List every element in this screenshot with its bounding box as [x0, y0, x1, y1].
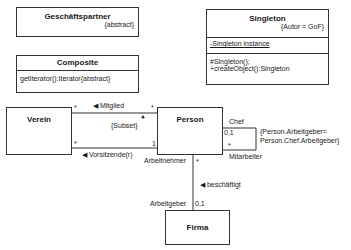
- multiplicity: 0,1: [195, 200, 205, 207]
- multiplicity: 1: [152, 140, 156, 147]
- class-name: Singleton: [207, 10, 328, 23]
- class-name: Verein: [7, 115, 71, 124]
- class-name: Composite: [17, 56, 138, 70]
- association-label-mitglied: ◀ Mitglied: [93, 102, 124, 110]
- class-name: Person: [158, 115, 222, 124]
- multiplicity: 0,1: [224, 129, 234, 136]
- class-operation: getIterator():Iterator{abstract}: [17, 70, 138, 92]
- class-operation: +createObject():Singleton: [210, 65, 325, 72]
- subset-constraint: {Subset}: [111, 122, 137, 129]
- class-tag: {Autor = GoF}: [207, 23, 328, 30]
- ocl-constraint: Person.Chef.Arbeitgeber}: [260, 137, 339, 144]
- multiplicity: *: [74, 104, 77, 111]
- class-attribute: -Singleton instance: [210, 40, 270, 47]
- role-chef: Chef: [229, 118, 244, 125]
- class-firma[interactable]: Firma: [165, 210, 230, 245]
- class-geschaeftspartner[interactable]: Geschäftspartner {abstract}: [16, 7, 139, 37]
- role-arbeitnehmer: Arbeitnehmer: [144, 157, 186, 164]
- class-operation: #Singleton();: [210, 58, 325, 65]
- multiplicity: *: [74, 140, 77, 147]
- multiplicity: *: [196, 158, 199, 165]
- association-label-vorsitzende: ◀ Vorsitzende(r): [82, 151, 133, 159]
- class-composite[interactable]: Composite getIterator():Iterator{abstrac…: [16, 55, 139, 93]
- class-singleton[interactable]: Singleton {Autor = GoF} -Singleton insta…: [206, 9, 329, 85]
- class-name: Firma: [166, 223, 229, 232]
- class-verein[interactable]: Verein: [6, 107, 72, 155]
- ocl-constraint: {Person.Arbeitgeber=: [260, 128, 327, 135]
- association-label-beschaeftigt: ◀ beschäftigt: [200, 181, 241, 189]
- multiplicity: *: [228, 142, 231, 149]
- class-person[interactable]: Person: [157, 107, 223, 155]
- role-arbeitgeber: Arbeitgeber: [150, 200, 186, 207]
- class-tag: {abstract}: [17, 21, 138, 28]
- class-name: Geschäftspartner: [17, 12, 138, 21]
- role-mitarbeiter: Mitarbeiter: [229, 153, 262, 160]
- multiplicity: *: [151, 104, 154, 111]
